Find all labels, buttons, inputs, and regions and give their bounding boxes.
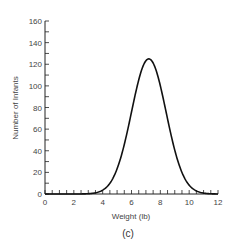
y-tick-label: 0 [38, 190, 43, 199]
axes: 024681012020406080100120140160 [29, 17, 223, 207]
y-tick-label: 100 [29, 82, 43, 91]
figure-caption: (c) [122, 228, 134, 239]
x-tick-label: 8 [158, 198, 163, 207]
x-tick-label: 6 [129, 198, 134, 207]
x-tick-label: 0 [43, 198, 48, 207]
y-tick-label: 60 [33, 125, 42, 134]
x-axis-label: Weight (lb) [112, 212, 151, 221]
bell-curve-chart: 024681012020406080100120140160 Number of… [0, 0, 237, 246]
y-axis-label: Number of Infants [11, 76, 20, 140]
x-tick-label: 10 [185, 198, 194, 207]
x-tick-label: 2 [72, 198, 77, 207]
y-tick-label: 120 [29, 60, 43, 69]
x-tick-label: 4 [100, 198, 105, 207]
y-tick-label: 40 [33, 147, 42, 156]
y-tick-label: 140 [29, 39, 43, 48]
distribution-curve [45, 59, 218, 194]
y-tick-label: 20 [33, 168, 42, 177]
x-tick-label: 12 [214, 198, 223, 207]
y-tick-label: 80 [33, 104, 42, 113]
y-tick-label: 160 [29, 17, 43, 26]
